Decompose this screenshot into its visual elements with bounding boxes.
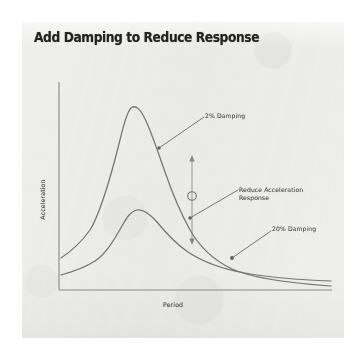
annotation-20pct-damping: 20% Damping <box>272 225 316 233</box>
figure-root: Add Damping to Reduce Response <box>0 0 364 358</box>
annotation-reduce-line1: Reduce Acceleration <box>239 186 303 193</box>
x-axis-label: Period <box>163 301 183 308</box>
callout-20pct-damping <box>230 231 271 260</box>
callout-reduce-acceleration-arrow <box>188 155 238 245</box>
annotation-reduce-line2: Response <box>239 194 269 201</box>
annotation-2pct-damping: 2% Damping <box>205 112 245 120</box>
series-line-20pct-damping <box>61 210 331 281</box>
callout-2pct-damping <box>157 117 204 150</box>
annotation-reduce-acceleration-response: Reduce AccelerationResponse <box>239 186 303 201</box>
y-axis-label: Acceleration <box>39 179 46 219</box>
